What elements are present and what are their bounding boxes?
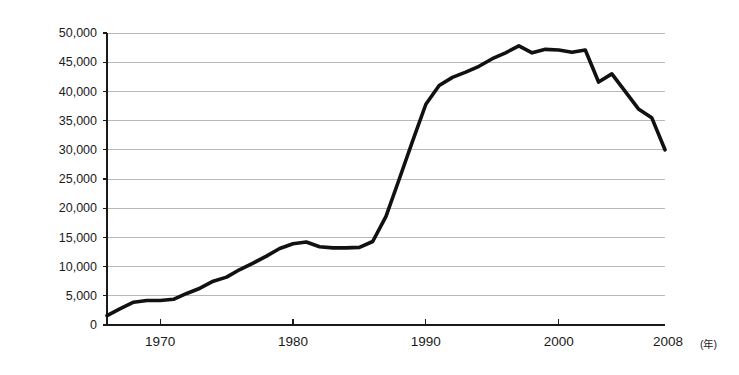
- y-axis-tick-label: 20,000: [59, 201, 97, 215]
- y-axis-tick-label: 50,000: [59, 26, 97, 40]
- x-axis-tick-label: 1980: [278, 334, 308, 349]
- x-axis-unit-label: (年): [700, 338, 717, 350]
- chart-canvas: 05,00010,00015,00020,00025,00030,00035,0…: [0, 0, 739, 375]
- gridlines: [103, 33, 665, 325]
- y-axis-tick-labels: 05,00010,00015,00020,00025,00030,00035,0…: [59, 26, 97, 332]
- y-axis-tick-label: 5,000: [66, 289, 97, 303]
- line-chart-figure: 05,00010,00015,00020,00025,00030,00035,0…: [0, 0, 739, 375]
- data-series-line: [107, 46, 665, 316]
- x-axis-ticks: 19701980199020002008: [145, 319, 683, 349]
- y-axis-tick-label: 10,000: [59, 260, 97, 274]
- y-axis-tick-label: 15,000: [59, 231, 97, 245]
- y-axis-tick-label: 45,000: [59, 55, 97, 69]
- x-axis-end-label: 2008: [653, 334, 683, 349]
- x-axis-tick-label: 1990: [411, 334, 441, 349]
- y-axis-tick-label: 40,000: [59, 85, 97, 99]
- y-axis-tick-label: 30,000: [59, 143, 97, 157]
- y-axis-tick-label: 35,000: [59, 114, 97, 128]
- x-axis-tick-label: 2000: [544, 334, 574, 349]
- x-axis-tick-label: 1970: [145, 334, 175, 349]
- y-axis-tick-label: 0: [90, 318, 97, 332]
- y-axis-tick-label: 25,000: [59, 172, 97, 186]
